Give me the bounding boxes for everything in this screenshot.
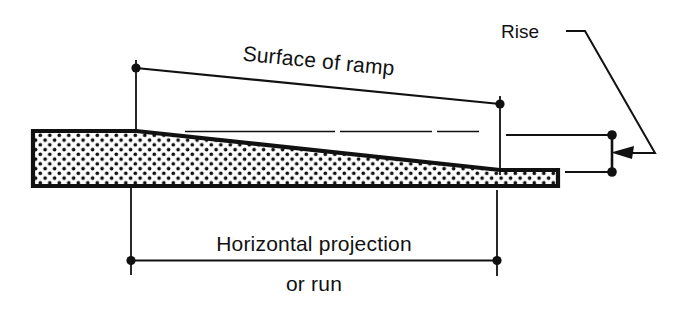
surface-dimension-line (136, 68, 500, 104)
rise-dot-top (607, 130, 617, 140)
rise-label: Rise (501, 21, 539, 42)
horizontal-projection-label: Horizontal projection (216, 232, 412, 255)
ramp-stipple-fill (30, 128, 564, 190)
horizontal-projection-dimension: Horizontal projection or run (126, 186, 501, 295)
surface-dot-right (495, 99, 504, 108)
surface-dot-left (131, 63, 140, 72)
diagram-canvas: Surface of ramp Horizontal projection or… (0, 0, 688, 318)
ramp-body (30, 128, 564, 190)
surface-of-ramp-label: Surface of ramp (242, 42, 396, 80)
run-dot-right (492, 256, 501, 265)
ramp-diagram-root: Surface of ramp Horizontal projection or… (0, 0, 688, 318)
or-run-label: or run (286, 272, 342, 295)
run-dot-left (126, 256, 135, 265)
rise-leader-arrowhead (611, 146, 634, 159)
rise-leader (566, 31, 655, 159)
rise-dot-bottom (607, 167, 617, 177)
